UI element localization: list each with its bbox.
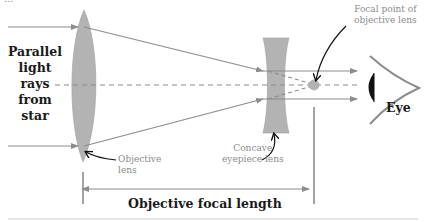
label-line: rays bbox=[0, 76, 70, 92]
label-line: star bbox=[0, 108, 70, 124]
label-line: Objective bbox=[118, 154, 161, 165]
label-line: lens bbox=[118, 165, 161, 176]
concave-eyepiece-lens-label: Concave eyepiece lens bbox=[222, 143, 284, 165]
focal-point bbox=[309, 80, 319, 90]
label-line: eyepiece lens bbox=[222, 154, 284, 165]
label-line: from bbox=[0, 92, 70, 108]
label-line: objective lens bbox=[354, 15, 417, 26]
objective-focal-length-label: Objective focal length bbox=[128, 196, 282, 211]
label-line: Concave bbox=[222, 143, 284, 154]
focal-point-label: Focal point of objective lens bbox=[354, 4, 417, 26]
parallel-light-rays-label: Parallel light rays from star bbox=[0, 44, 70, 124]
eye-label: Eye bbox=[386, 100, 411, 115]
objective-lens-label: Objective lens bbox=[118, 154, 161, 176]
converging-ray-bottom bbox=[84, 99, 263, 146]
converging-ray-top bbox=[84, 27, 263, 71]
label-line: Focal point of bbox=[354, 4, 417, 15]
label-line: Parallel bbox=[0, 44, 70, 60]
objective-lens bbox=[72, 10, 96, 162]
label-line: light bbox=[0, 60, 70, 76]
